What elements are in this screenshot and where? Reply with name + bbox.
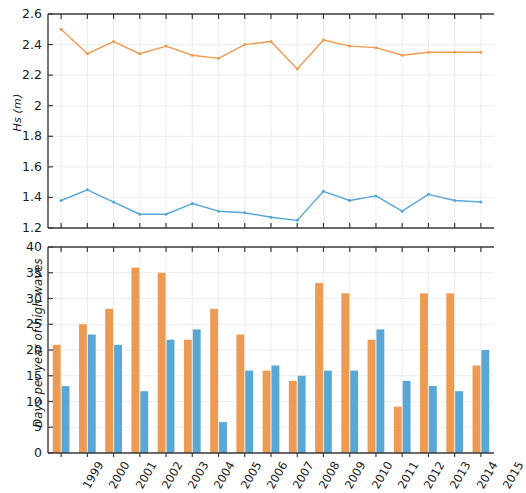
bar-chart-y-tick: 35 [0,265,42,280]
bar-orange [446,293,454,453]
line-chart-plot-area [0,0,497,240]
bar-orange [236,335,244,453]
bar-chart-y-tick: 15 [0,368,42,383]
bar-orange [131,268,139,453]
bar-blue [245,371,253,453]
bar-blue [272,365,280,453]
bar-blue [298,376,306,453]
bar-blue [62,386,70,453]
bar-blue [167,340,175,453]
line-chart-y-tick: 2.4 [0,37,42,52]
bar-orange [394,407,402,453]
bar-orange [210,309,218,453]
bar-orange [184,340,192,453]
bar-blue [324,371,332,453]
bar-blue [455,391,463,453]
bar-orange [420,293,428,453]
bar-orange [105,309,113,453]
bar-orange [53,345,61,453]
bar-chart-y-tick: 20 [0,342,42,357]
bar-chart-y-tick: 25 [0,316,42,331]
bar-chart-panel: Days per year of high waves 051015202530… [0,238,497,493]
bar-chart-y-tick: 30 [0,291,42,306]
bar-orange [79,324,87,453]
bar-blue [193,329,201,453]
bar-blue [376,329,384,453]
bar-blue [481,350,489,453]
bar-chart-y-tick: 10 [0,394,42,409]
bar-orange [473,365,481,453]
line-chart-y-tick: 1.6 [0,159,42,174]
bar-orange [341,293,349,453]
line-chart-y-tick: 2.6 [0,6,42,21]
bar-orange [368,340,376,453]
line-chart-y-tick: 2.2 [0,67,42,82]
line-chart-y-tick: 1.8 [0,128,42,143]
bar-chart-plot-area [0,238,497,493]
bar-blue [140,391,148,453]
bar-orange [158,273,166,453]
bar-chart-y-tick: 5 [0,419,42,434]
bar-chart-y-tick: 0 [0,445,42,460]
bar-orange [263,371,271,453]
bar-orange [289,381,297,453]
bar-orange [315,283,323,453]
bar-blue [114,345,122,453]
line-chart-y-tick: 1.4 [0,189,42,204]
bar-blue [219,422,227,453]
bar-chart-y-tick: 40 [0,239,42,254]
bar-blue [429,386,437,453]
bar-chart-x-tick: 2015 [500,459,526,491]
bar-blue [403,381,411,453]
line-chart-panel: Hs (m) 1.21.41.61.822.22.42.6 [0,0,497,240]
bar-blue [88,335,96,453]
bar-blue [350,371,358,453]
line-chart-y-tick: 2 [0,98,42,113]
